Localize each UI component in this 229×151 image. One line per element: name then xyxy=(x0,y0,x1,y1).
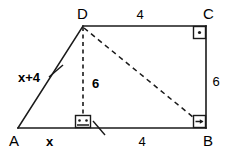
congruence-tick-ad xyxy=(49,65,63,77)
length-label-cb: 6 xyxy=(212,74,219,89)
length-label-ae: x xyxy=(46,134,54,149)
geometry-canvas: A B C D 4 6 4 6 x+4 x xyxy=(0,0,229,151)
vertex-label-C: C xyxy=(203,5,214,22)
right-angle-dot-C xyxy=(198,31,201,34)
vertex-label-D: D xyxy=(77,5,88,22)
length-label-dc: 4 xyxy=(136,7,143,22)
right-angle-E xyxy=(76,116,91,128)
right-angle-dot-E-right xyxy=(85,119,88,122)
length-label-eb: 4 xyxy=(138,134,145,149)
length-label-ad: x+4 xyxy=(18,70,41,85)
length-label-altitude: 6 xyxy=(92,76,99,91)
right-angle-C xyxy=(194,27,206,39)
diagonal-DB xyxy=(84,28,204,126)
right-angle-B xyxy=(194,116,206,128)
vertex-label-A: A xyxy=(9,132,19,149)
vertex-label-B: B xyxy=(203,132,213,149)
right-angle-dot-E-left xyxy=(78,119,81,122)
geometry-figure: A B C D 4 6 4 6 x+4 x xyxy=(0,0,229,151)
